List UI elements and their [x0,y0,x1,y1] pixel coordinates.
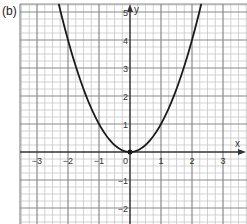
y-tick-label: 5 [123,8,128,18]
vertex-point [128,150,133,155]
x-tick-label: 2 [189,156,194,166]
x-tick-label: −3 [32,156,42,166]
x-tick-label: 3 [220,156,225,166]
y-tick-label: 1 [123,120,128,130]
y-tick-label: −2 [118,204,128,214]
x-axis-label: x [235,138,240,149]
y-axis-label: y [134,4,139,15]
y-tick-label: 3 [123,64,128,74]
parabola-chart: xy−3−2−1123−2−1123450 [0,0,247,224]
origin-label: 0 [123,156,128,166]
x-tick-label: 1 [158,156,163,166]
y-tick-label: 2 [123,92,128,102]
x-tick-label: −1 [94,156,104,166]
x-axis-arrow-icon [238,149,246,155]
x-tick-label: −2 [63,156,73,166]
y-tick-label: 4 [123,36,128,46]
y-tick-label: −1 [118,176,128,186]
